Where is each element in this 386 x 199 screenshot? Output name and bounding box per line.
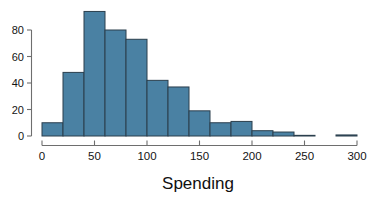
y-tick-label-20: 20 (12, 104, 24, 116)
histogram-bar (294, 135, 315, 136)
y-tick-label-40: 40 (12, 77, 24, 89)
x-tick-label-300: 300 (347, 150, 366, 162)
x-axis: 0 50 100 150 200 250 300 (39, 141, 367, 163)
histogram-figure: 80 60 40 20 0 0 50 100 150 200 250 300 S… (0, 0, 386, 199)
y-axis: 80 60 40 20 0 (12, 24, 32, 142)
x-tick-label-100: 100 (137, 150, 156, 162)
x-tick-label-200: 200 (242, 150, 261, 162)
histogram-bar (273, 132, 294, 136)
histogram-bar (126, 39, 147, 136)
histogram-bar (42, 123, 63, 136)
x-axis-title: Spending (162, 174, 234, 193)
y-tick-label-60: 60 (12, 51, 24, 63)
histogram-bar (168, 87, 189, 136)
histogram-bar (63, 72, 84, 136)
x-tick-label-0: 0 (39, 150, 45, 162)
histogram-bar (147, 80, 168, 136)
y-tick-label-80: 80 (12, 24, 24, 36)
x-tick-label-150: 150 (190, 150, 209, 162)
x-tick-label-250: 250 (295, 150, 314, 162)
histogram-bar (231, 121, 252, 136)
histogram-bar (252, 131, 273, 136)
histogram-bar (210, 123, 231, 136)
histogram-bar (84, 11, 105, 136)
bars-group (42, 11, 357, 136)
x-tick-label-50: 50 (88, 150, 101, 162)
histogram-bar (189, 111, 210, 136)
histogram-bar (336, 135, 357, 136)
spending-histogram-svg: 80 60 40 20 0 0 50 100 150 200 250 300 S… (0, 0, 386, 199)
histogram-bar (105, 30, 126, 136)
y-tick-label-0: 0 (18, 130, 24, 142)
